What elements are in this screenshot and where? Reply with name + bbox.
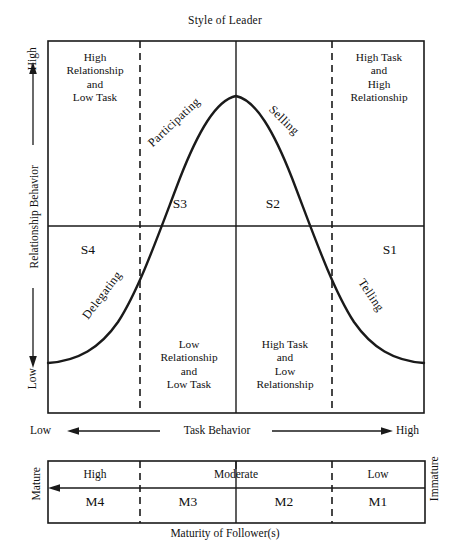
- maturity-band-low: Low: [333, 468, 423, 482]
- quadrant-description-s2: High Task and High Relationship: [334, 51, 424, 104]
- quadrant-description-s1: High Task and Low Relationship: [239, 338, 331, 391]
- x-axis-low-label: Low: [30, 424, 70, 438]
- quadrant-description-s4: Low Relationship and Low Task: [143, 338, 235, 391]
- style-code-s1: S1: [370, 242, 410, 258]
- maturity-code-m2: M2: [237, 494, 331, 510]
- style-code-s3: S3: [160, 196, 200, 212]
- quadrant-description-s3: High Relationship and Low Task: [50, 51, 140, 104]
- x-axis-arrow-right: [272, 427, 393, 435]
- y-axis-label: Relationship Behavior: [28, 147, 42, 287]
- maturity-band-high: High: [50, 468, 140, 482]
- maturity-code-m1: M1: [333, 494, 423, 510]
- style-code-s4: S4: [68, 242, 108, 258]
- maturity-band-moderate: Moderate: [176, 468, 296, 482]
- style-code-s2: S2: [253, 196, 293, 212]
- y-axis-high-label: High: [26, 35, 40, 83]
- y-axis-low-label: Low: [26, 355, 40, 403]
- x-axis-arrow-left: [67, 427, 160, 435]
- maturity-code-m4: M4: [50, 494, 140, 510]
- maturity-caption: Maturity of Follower(s): [0, 527, 450, 541]
- situational-leadership-diagram: Style of Leader: [0, 0, 450, 546]
- maturity-immature-label: Immature: [428, 436, 442, 522]
- x-axis-label: Task Behavior: [162, 424, 272, 438]
- maturity-code-m3: M3: [141, 494, 235, 510]
- maturity-mature-label: Mature: [30, 449, 44, 519]
